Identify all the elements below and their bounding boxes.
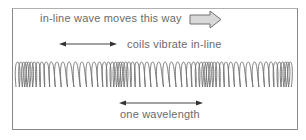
wavelength-label: one wavelength: [120, 108, 200, 120]
coiled-spring-icon: [15, 62, 292, 87]
block-right-arrow-icon: [190, 11, 221, 28]
coils-vibrate-label: coils vibrate in-line: [127, 38, 222, 50]
double-headed-arrow-icon: [59, 42, 117, 47]
wavelength-arrow-icon: [119, 101, 203, 106]
